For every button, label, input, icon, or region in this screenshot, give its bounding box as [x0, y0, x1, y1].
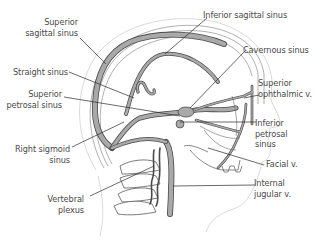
- label-superior-ophthalmic-v: Superior ophthalmic v.: [258, 78, 312, 99]
- label-cavernous-sinus: Cavernous sinus: [243, 45, 309, 56]
- label-superior-sagittal-sinus: Superior sagittal sinus: [25, 17, 78, 38]
- label-vertebral-plexus: Vertebral plexus: [47, 194, 84, 215]
- label-right-sigmoid-sinus: Right sigmoid sinus: [15, 144, 70, 165]
- label-facial-v: Facial v.: [266, 159, 298, 170]
- label-internal-jugular-v: Internal jugular v.: [254, 178, 291, 199]
- label-inferior-sagittal-sinus: Inferior sagittal sinus: [203, 10, 287, 21]
- venous-sinus-diagram: Superior sagittal sinus Inferior sagitta…: [0, 0, 315, 241]
- label-inferior-petrosal-sinus: Inferior petrosal sinus: [255, 118, 287, 150]
- label-superior-petrosal-sinus: Superior petrosal sinus: [6, 89, 62, 110]
- label-straight-sinus: Straight sinus: [13, 67, 68, 78]
